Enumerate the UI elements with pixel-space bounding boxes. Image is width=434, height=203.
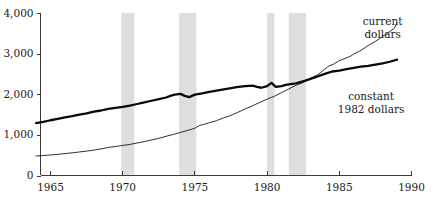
y-tick-label-0: 0 (27, 169, 34, 181)
recession-1980 (267, 13, 274, 176)
economic-line-chart: 01,0002,0003,0004,000 196519701975198019… (0, 0, 434, 203)
y-tick-label-2,000: 2,000 (3, 88, 33, 100)
series-line-current-dollars (36, 23, 397, 156)
x-tick-label-1985: 1985 (326, 181, 353, 193)
x-tick-label-1980: 1980 (254, 181, 281, 193)
chart-canvas: 01,0002,0003,0004,000 196519701975198019… (0, 0, 434, 203)
constant-dollars-label-line1: constant (348, 90, 395, 102)
current-dollars-label-line2: dollars (364, 28, 400, 40)
constant-dollars-label: constant1982 dollars (338, 90, 405, 115)
current-dollars-label-line1: current (363, 15, 404, 27)
y-tick-label-4,000: 4,000 (3, 7, 33, 19)
recession-1970 (121, 13, 134, 176)
recession-1981 (289, 13, 306, 176)
x-tick-label-1970: 1970 (109, 181, 136, 193)
y-axis-ticks-group: 01,0002,0003,0004,000 (3, 7, 40, 182)
x-tick-label-1965: 1965 (37, 181, 64, 193)
constant-dollars-label-line2: 1982 dollars (338, 103, 405, 115)
current-dollars-label: currentdollars (363, 15, 404, 40)
y-tick-label-1,000: 1,000 (3, 128, 33, 140)
y-tick-label-3,000: 3,000 (3, 47, 33, 59)
x-tick-label-1990: 1990 (398, 181, 425, 193)
data-series-group (36, 23, 397, 156)
x-tick-label-1975: 1975 (182, 181, 209, 193)
x-axis-ticks-group: 196519701975198019851990 (37, 171, 425, 193)
